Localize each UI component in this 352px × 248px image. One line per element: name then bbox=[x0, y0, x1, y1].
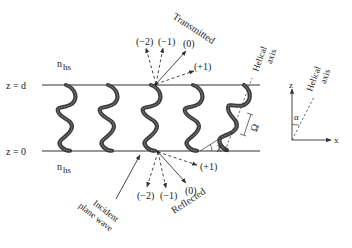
svg-text:n: n bbox=[57, 58, 62, 69]
svg-text:hs: hs bbox=[63, 165, 72, 175]
svg-text:n: n bbox=[57, 161, 62, 172]
inset-helical-axis-label: Helical axis bbox=[304, 64, 332, 96]
n-hs-top-label: n hs bbox=[57, 58, 72, 72]
n-hs-bottom-label: n hs bbox=[57, 161, 72, 175]
grating-diagram: z = d z = 0 n hs n hs Helical axis Ω χ s bbox=[0, 0, 352, 248]
transmitted-order-0: (0) bbox=[183, 38, 195, 50]
svg-text:hs: hs bbox=[63, 62, 72, 72]
transmitted-order-m1: (−1) bbox=[158, 36, 175, 48]
helix-1 bbox=[58, 85, 76, 151]
transmitted-order-m2: (−2) bbox=[136, 36, 153, 48]
reflected-order-m1: (−1) bbox=[160, 190, 177, 202]
period-omega-marker: Ω bbox=[240, 113, 261, 136]
inset-x-axis-label: x bbox=[334, 135, 339, 145]
inset-alpha-label: α bbox=[294, 112, 299, 122]
z-equals-d-label: z = d bbox=[6, 80, 26, 91]
svg-text:Ω: Ω bbox=[248, 122, 261, 133]
reflected-order-m2: (−2) bbox=[137, 190, 154, 202]
helical-axis-label: Helical axis bbox=[250, 44, 278, 76]
svg-text:χ: χ bbox=[216, 141, 222, 152]
transmitted-rays bbox=[146, 48, 194, 86]
transmitted-order-p1: (+1) bbox=[194, 61, 211, 73]
incident-plane-wave-label: Incident plane wave bbox=[77, 192, 122, 234]
inset-z-axis-label: z bbox=[289, 80, 293, 90]
reflected-rays bbox=[147, 151, 197, 188]
reflected-order-p1: (+1) bbox=[200, 161, 217, 173]
helix-3 bbox=[143, 85, 161, 151]
helix-2 bbox=[100, 85, 118, 151]
svg-text:s: s bbox=[224, 144, 228, 154]
z-equals-0-label: z = 0 bbox=[6, 146, 26, 157]
helix-4 bbox=[185, 85, 203, 151]
